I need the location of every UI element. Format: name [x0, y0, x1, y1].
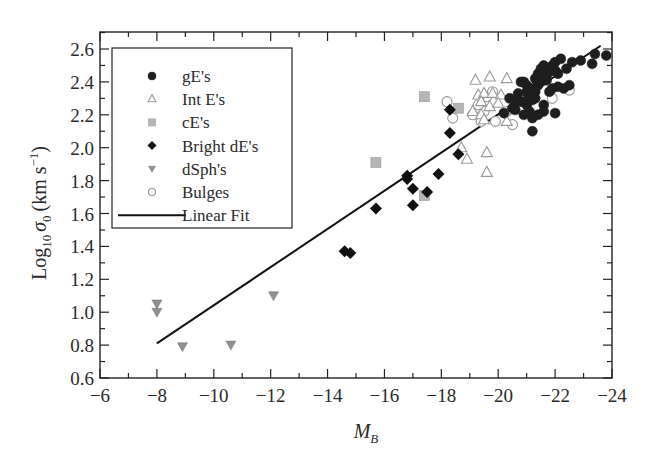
data-point	[527, 126, 537, 136]
y-title-units-close: )	[28, 146, 51, 153]
x-tick-label: −16	[370, 385, 400, 406]
x-tick-label: −8	[147, 385, 167, 406]
data-point	[527, 83, 537, 93]
legend: gE'sInt E'scE'sBright dE'sdSph'sBulgesLi…	[112, 48, 292, 228]
data-point	[484, 71, 495, 81]
x-tick-label: −14	[313, 385, 343, 406]
x-axis-title: MB	[353, 420, 379, 446]
x-tick-label: −10	[199, 385, 229, 406]
y-axis-title: Log10σ0(km s−1)	[26, 146, 54, 280]
legend-symbol-icon	[148, 72, 156, 80]
data-point	[539, 107, 549, 117]
legend-label: cE's	[182, 113, 210, 132]
data-point	[530, 93, 540, 103]
data-point	[407, 183, 419, 195]
y-title-log-sub: 10	[39, 235, 54, 248]
data-point	[564, 80, 574, 90]
y-tick-label: 0.6	[70, 368, 94, 389]
legend-label: Linear Fit	[182, 206, 250, 225]
y-tick-label: 2.0	[70, 138, 94, 159]
data-point	[501, 73, 512, 83]
data-point	[481, 147, 492, 157]
x-axis-title-main: M	[353, 420, 372, 442]
y-tick-label: 1.0	[70, 302, 94, 323]
x-tick-label: −18	[426, 385, 456, 406]
data-point	[547, 83, 557, 93]
data-point	[516, 97, 526, 107]
y-tick-label: 1.6	[70, 204, 94, 225]
data-point	[269, 292, 279, 301]
series-dsph-s	[152, 292, 279, 352]
legend-label: gE's	[182, 67, 211, 86]
y-title-log: Log	[28, 248, 51, 280]
x-tick-label: −20	[483, 385, 513, 406]
legend-label: Int E's	[182, 90, 225, 109]
series-int-e-s	[456, 71, 515, 176]
data-point	[590, 49, 600, 59]
y-title-units: (km s	[28, 166, 51, 211]
y-tick-label: 2.6	[70, 39, 94, 60]
y-tick-label: 2.2	[70, 105, 94, 126]
data-point	[470, 74, 481, 84]
legend-label: dSph's	[182, 160, 227, 179]
data-point	[576, 56, 586, 66]
legend-label: Bright dE's	[182, 137, 258, 156]
y-tick-label: 2.4	[70, 72, 94, 93]
data-point	[177, 343, 187, 352]
data-point	[481, 166, 492, 176]
data-point	[419, 92, 429, 102]
legend-symbol-icon	[149, 119, 156, 126]
data-point	[152, 300, 162, 309]
series-bright-de-s	[339, 104, 465, 259]
data-point	[556, 54, 566, 64]
y-tick-label: 0.8	[70, 335, 94, 356]
scatter-chart: −6−8−10−12−14−16−18−20−22−24 0.60.81.01.…	[0, 0, 646, 460]
legend-label: Bulges	[182, 183, 229, 202]
y-title-sigma-sub: 0	[39, 215, 54, 222]
y-tick-label: 1.4	[70, 236, 94, 257]
data-point	[453, 103, 463, 113]
data-point	[152, 308, 162, 317]
y-tick-label: 1.8	[70, 171, 94, 192]
data-point	[567, 57, 577, 67]
y-title-units-sup: −1	[26, 153, 41, 167]
data-point	[370, 203, 382, 215]
data-point	[226, 341, 236, 350]
x-tick-label: −22	[540, 385, 570, 406]
data-point	[371, 158, 381, 168]
data-point	[432, 168, 444, 180]
data-point	[601, 51, 611, 61]
legend-symbol-icon	[149, 189, 156, 196]
data-point	[587, 59, 597, 69]
x-axis-title-sub: B	[370, 431, 378, 446]
y-tick-label: 1.2	[70, 269, 94, 290]
x-tick-label: −12	[256, 385, 286, 406]
data-point	[444, 127, 456, 139]
data-point	[490, 116, 500, 126]
data-point	[550, 108, 560, 118]
data-point	[407, 199, 419, 211]
data-point	[499, 108, 509, 118]
x-tick-label: −24	[597, 385, 627, 406]
